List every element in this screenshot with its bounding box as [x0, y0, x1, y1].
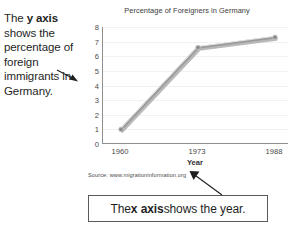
y-tick-label: 1 — [85, 125, 99, 134]
y-tick-label: 4 — [85, 81, 99, 90]
line-chart: Percentage of Foreigners in Germany 0123… — [84, 6, 290, 166]
y-axis-tick-labels: 012345678 — [84, 27, 99, 144]
chart-series-svg — [103, 27, 289, 144]
data-point-marker — [119, 127, 124, 132]
x-tick-label: 1960 — [98, 147, 142, 156]
plot-area — [102, 27, 288, 144]
data-point-marker — [273, 35, 278, 40]
y-tick-label: 0 — [85, 140, 99, 149]
x-axis-callout-emphasis: x axis — [131, 202, 164, 216]
data-point-marker — [196, 45, 201, 50]
x-axis-callout-prefix: The — [110, 202, 130, 216]
x-axis-title: Year — [102, 158, 288, 167]
x-axis-pointer-arrow-icon — [190, 171, 223, 195]
series-line-shadow — [122, 39, 276, 131]
x-tick-label: 1973 — [175, 147, 219, 156]
y-tick-label: 2 — [85, 110, 99, 119]
x-axis-callout-suffix: shows the year. — [164, 202, 246, 216]
y-axis-annotation-text: The y axis shows the percentage of forei… — [4, 11, 80, 99]
y-tick-label: 5 — [85, 66, 99, 75]
y-axis-annotation-emphasis: y axis — [27, 12, 58, 24]
x-axis-callout-box: The x axis shows the year. — [88, 195, 268, 222]
y-tick-label: 6 — [85, 52, 99, 61]
y-tick-label: 3 — [85, 96, 99, 105]
y-axis-annotation-prefix: The — [4, 12, 27, 24]
y-axis-annotation-suffix: shows the percentage of foreign immigran… — [4, 27, 73, 97]
y-tick-label: 8 — [85, 23, 99, 32]
x-tick-label: 1988 — [252, 147, 294, 156]
source-caption: Source: www.migrationinformation.org — [88, 172, 186, 178]
y-tick-label: 7 — [85, 37, 99, 46]
chart-title: Percentage of Foreigners in Germany — [84, 6, 290, 15]
